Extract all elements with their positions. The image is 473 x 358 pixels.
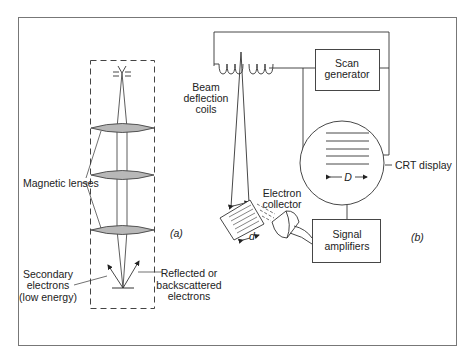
electron-collector-icon <box>272 211 312 244</box>
label-magnetic-lenses: Magnetic lenses <box>23 177 99 189</box>
label-amp-2: amplifiers <box>325 240 370 252</box>
label-crt-display: CRT display <box>395 159 453 171</box>
label-reflected-1: Reflected or <box>161 267 218 279</box>
panel-a-label: (a) <box>170 227 183 239</box>
crt-display-circle <box>300 121 384 205</box>
backscatter-arrow <box>123 261 139 288</box>
label-crt-dimension: D <box>344 171 352 183</box>
label-scan-2: generator <box>325 68 370 80</box>
label-secondary-3: (low energy) <box>19 291 77 303</box>
lens-2 <box>91 171 154 180</box>
panel-b-sem-system <box>214 32 392 263</box>
label-amp-1: Signal <box>332 228 361 240</box>
label-secondary-2: electrons <box>27 279 70 291</box>
beam-rays <box>117 73 127 288</box>
label-specimen-dimension: d <box>249 230 256 242</box>
deflection-coil-right-icon <box>249 64 273 74</box>
label-collector-2: collector <box>262 198 302 210</box>
label-beam-3: coils <box>195 103 216 115</box>
leader-lines-a <box>74 131 162 285</box>
label-reflected-3: electrons <box>168 290 211 302</box>
column-dashed-box <box>91 61 155 309</box>
lens-1 <box>91 124 154 133</box>
magnetic-lens-icons <box>91 124 154 235</box>
panel-b-label: (b) <box>411 231 424 243</box>
sem-diagram: Magnetic lenses Secondary electrons (low… <box>0 0 473 358</box>
